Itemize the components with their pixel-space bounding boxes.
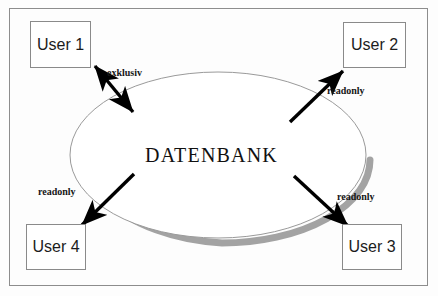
database-label: DATENBANK: [145, 145, 278, 165]
edge-label-user-2: readonly: [327, 86, 365, 96]
node-user-3-label: User 3: [348, 239, 395, 255]
diagram-canvas: DATENBANK User 1 User 2 User 3 User 4 ex…: [0, 0, 438, 296]
node-user-1[interactable]: User 1: [30, 21, 91, 68]
edge-label-user-4: readonly: [38, 187, 76, 197]
edge-label-user-3: readonly: [337, 192, 375, 202]
node-user-4[interactable]: User 4: [26, 224, 86, 270]
edge-label-user-1: exklusiv: [107, 68, 142, 78]
node-user-2[interactable]: User 2: [343, 22, 406, 68]
node-user-2-label: User 2: [351, 37, 398, 53]
node-user-1-label: User 1: [37, 37, 84, 53]
node-user-4-label: User 4: [32, 239, 79, 255]
node-user-3[interactable]: User 3: [342, 224, 402, 270]
